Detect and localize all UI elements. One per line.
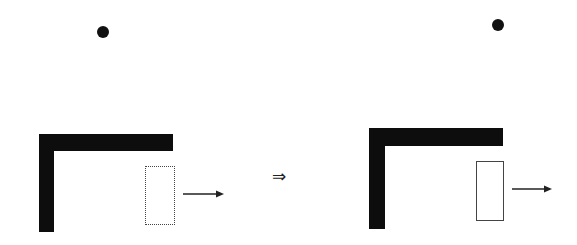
implies-arrow-icon: ⇒ bbox=[272, 168, 286, 185]
before-right-arrow-icon bbox=[183, 189, 225, 199]
after-rectangle bbox=[476, 161, 504, 221]
before-l-vertical-bar bbox=[39, 134, 54, 232]
before-rectangle bbox=[145, 166, 175, 225]
after-right-arrow-icon bbox=[512, 184, 554, 194]
after-l-vertical-bar bbox=[369, 128, 385, 229]
before-dot bbox=[97, 26, 109, 38]
after-dot bbox=[492, 19, 504, 31]
before-l-horizontal-bar bbox=[39, 134, 173, 151]
after-l-horizontal-bar bbox=[369, 128, 503, 146]
